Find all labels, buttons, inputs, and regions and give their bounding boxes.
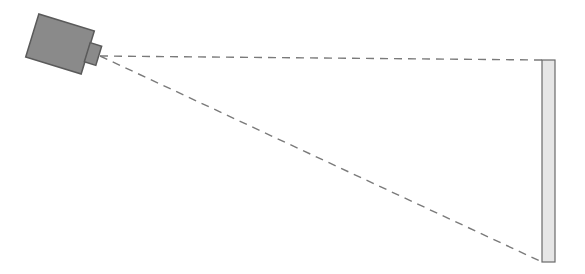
diagram-canvas — [0, 0, 585, 274]
target-panel — [542, 60, 555, 262]
lower-ray — [100, 56, 542, 262]
upper-ray — [100, 56, 542, 60]
camera-icon — [26, 14, 102, 74]
camera-body — [26, 14, 95, 74]
field-of-view-rays — [100, 56, 542, 262]
